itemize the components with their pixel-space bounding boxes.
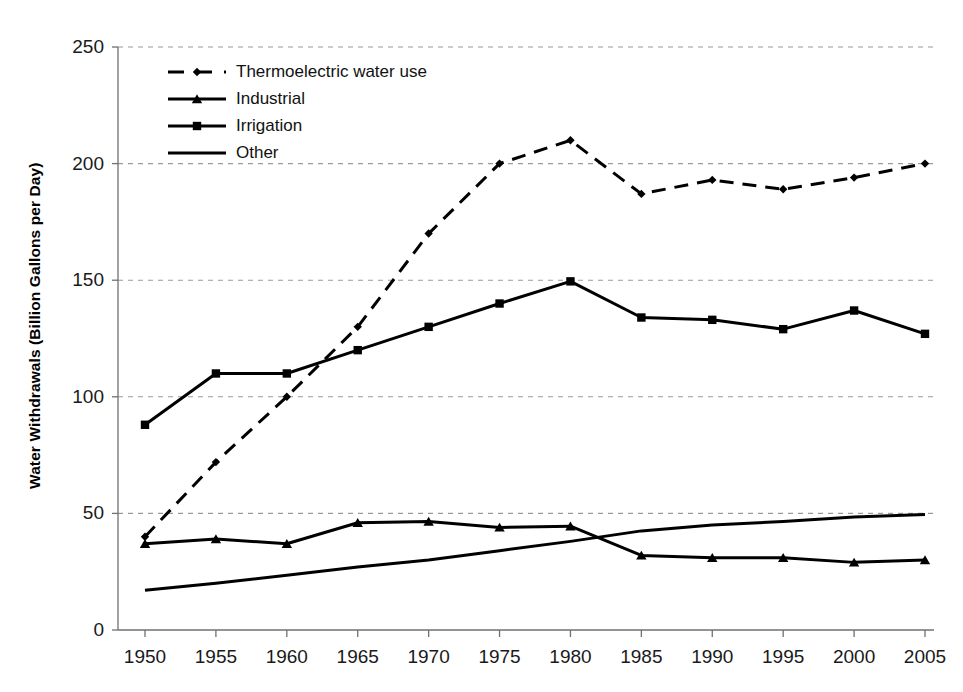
y-tick-label-250: 250 — [40, 36, 104, 58]
x-tick-label-2005: 2005 — [904, 646, 946, 668]
x-tick-label-1960: 1960 — [266, 646, 308, 668]
x-tick-label-1985: 1985 — [620, 646, 662, 668]
legend-marker — [193, 121, 201, 129]
chart-legend: Thermoelectric water useIndustrialIrriga… — [166, 58, 486, 166]
series-irrigation — [141, 277, 929, 429]
data-point — [850, 173, 858, 181]
legend-item-other: Other — [166, 139, 486, 166]
legend-marker — [193, 67, 201, 75]
data-point — [779, 325, 787, 333]
series-thermoelectric-water-use — [141, 136, 929, 541]
y-axis-title: Water Withdrawals (Billion Gallons per D… — [26, 162, 44, 489]
data-point — [566, 136, 574, 144]
legend-swatch-line-icon — [166, 143, 228, 163]
x-tick-label-1990: 1990 — [691, 646, 733, 668]
data-point — [212, 369, 220, 377]
legend-label: Industrial — [228, 89, 305, 109]
x-tick-label-1970: 1970 — [407, 646, 449, 668]
legend-sample-graphic — [166, 143, 228, 163]
legend-sample-graphic — [166, 62, 228, 82]
data-point — [354, 346, 362, 354]
legend-label: Other — [228, 143, 279, 163]
y-tick-label-200: 200 — [40, 153, 104, 175]
data-point — [850, 306, 858, 314]
data-point — [637, 313, 645, 321]
data-point — [566, 277, 574, 285]
data-point — [141, 421, 149, 429]
data-point — [921, 159, 929, 167]
legend-swatch-square-icon — [166, 116, 228, 136]
legend-item-thermoelectric-water-use: Thermoelectric water use — [166, 58, 486, 85]
data-point — [495, 299, 503, 307]
data-point — [708, 176, 716, 184]
data-point — [424, 323, 432, 331]
legend-item-irrigation: Irrigation — [166, 112, 486, 139]
x-tick-label-1955: 1955 — [195, 646, 237, 668]
legend-label: Thermoelectric water use — [228, 62, 427, 82]
data-point — [283, 369, 291, 377]
legend-swatch-triangle-icon — [166, 89, 228, 109]
series-line — [145, 281, 925, 424]
legend-swatch-diamond-icon — [166, 62, 228, 82]
y-tick-label-0: 0 — [40, 619, 104, 641]
water-withdrawals-line-chart: Water Withdrawals (Billion Gallons per D… — [0, 0, 963, 692]
data-point — [708, 316, 716, 324]
data-point — [779, 185, 787, 193]
series-industrial — [140, 517, 930, 567]
data-series — [140, 136, 930, 590]
x-tick-label-2000: 2000 — [833, 646, 875, 668]
x-tick-label-1965: 1965 — [337, 646, 379, 668]
series-line — [145, 140, 925, 536]
legend-label: Irrigation — [228, 116, 302, 136]
data-point — [921, 330, 929, 338]
series-line — [145, 522, 925, 563]
y-tick-label-50: 50 — [40, 502, 104, 524]
legend-item-industrial: Industrial — [166, 85, 486, 112]
y-tick-label-150: 150 — [40, 269, 104, 291]
legend-sample-graphic — [166, 89, 228, 109]
x-tick-label-1980: 1980 — [549, 646, 591, 668]
x-tick-label-1995: 1995 — [762, 646, 804, 668]
y-tick-label-100: 100 — [40, 386, 104, 408]
x-tick-label-1975: 1975 — [478, 646, 520, 668]
x-tick-label-1950: 1950 — [124, 646, 166, 668]
legend-sample-graphic — [166, 116, 228, 136]
